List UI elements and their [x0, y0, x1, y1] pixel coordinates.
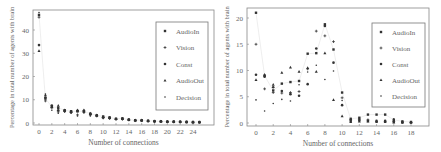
- data-point-audioout: [298, 70, 301, 73]
- data-point-decision: [164, 96, 166, 98]
- y-tick-label: 15: [236, 41, 244, 49]
- y-axis-label: Percentage in total number of agents wit…: [8, 6, 15, 128]
- chart-right: 05101520024681012141618Number of connect…: [220, 0, 441, 152]
- legend-label: AudioIn: [392, 29, 416, 37]
- x-tick-label: 12: [356, 129, 364, 137]
- legend-label: Vision: [392, 45, 411, 53]
- data-point-audioin: [281, 82, 283, 84]
- data-point-decision: [350, 120, 352, 122]
- data-point-decision: [255, 99, 257, 101]
- data-point-const: [289, 93, 292, 96]
- x-axis-label: Number of connections: [303, 139, 373, 148]
- data-point-decision: [393, 118, 395, 120]
- data-point-const: [255, 73, 258, 76]
- scatter-plot-right: 05101520024681012141618Number of connect…: [220, 0, 441, 152]
- data-point-decision: [402, 122, 404, 124]
- legend-label: AudioOut: [176, 77, 204, 85]
- data-point-decision: [167, 121, 169, 123]
- data-point-audioout: [38, 49, 41, 52]
- data-point-decision: [96, 115, 98, 117]
- scatter-plot-left: 010203040024681012141618202224Number of …: [0, 0, 220, 152]
- data-point-audioout: [280, 71, 283, 74]
- data-point-decision: [90, 115, 92, 117]
- x-tick-label: 18: [408, 129, 416, 137]
- x-tick-label: 14: [373, 129, 381, 137]
- x-tick-label: 8: [323, 129, 327, 137]
- data-point-vision: [298, 90, 301, 93]
- data-point-audioout: [289, 66, 292, 69]
- data-point-decision: [324, 79, 326, 81]
- x-tick-label: 12: [113, 128, 121, 136]
- x-tick-label: 6: [76, 128, 80, 136]
- data-point-decision: [179, 121, 181, 123]
- data-point-decision: [141, 120, 143, 122]
- data-point-const: [341, 104, 344, 107]
- data-point-audioout: [82, 109, 85, 112]
- x-tick-label: 10: [339, 129, 347, 137]
- data-point-vision: [255, 43, 258, 46]
- data-point-decision: [341, 100, 343, 102]
- data-point-audioout: [315, 70, 318, 73]
- data-point-decision: [38, 12, 40, 14]
- data-point-decision: [376, 121, 378, 123]
- legend-label: AudioIn: [176, 28, 200, 36]
- data-point-decision: [83, 112, 85, 114]
- x-tick-label: 6: [306, 129, 310, 137]
- data-point-const: [44, 96, 47, 99]
- data-point-audioin: [315, 52, 317, 54]
- data-point-audioin: [164, 30, 166, 32]
- data-point-audioin: [332, 48, 334, 50]
- x-tick-label: 24: [190, 128, 198, 136]
- data-point-decision: [147, 121, 149, 123]
- legend-label: AudioOut: [392, 77, 420, 85]
- data-point-decision: [359, 118, 361, 120]
- chart-left: 010203040024681012141618202224Number of …: [0, 0, 220, 152]
- data-point-audioin: [289, 81, 291, 83]
- y-tick-label: 0: [26, 120, 30, 128]
- data-point-decision: [115, 119, 117, 121]
- data-point-decision: [333, 70, 335, 72]
- legend-label: Vision: [176, 44, 195, 52]
- data-point-const: [332, 61, 335, 64]
- data-point-audioin: [367, 113, 369, 115]
- data-point-audioout: [341, 115, 344, 118]
- data-point-audioout: [255, 78, 258, 81]
- data-point-const: [306, 83, 309, 86]
- data-point-decision: [307, 71, 309, 73]
- data-point-const: [38, 44, 41, 47]
- legend-label: Const: [176, 61, 192, 69]
- y-tick-label: 0: [240, 120, 244, 128]
- data-point-decision: [186, 122, 188, 124]
- data-point-decision: [160, 121, 162, 123]
- data-point-decision: [102, 118, 104, 120]
- data-point-const: [164, 63, 167, 66]
- data-point-vision: [263, 87, 266, 90]
- data-point-decision: [298, 84, 300, 86]
- data-point-const: [263, 76, 266, 79]
- data-point-decision: [192, 122, 194, 124]
- data-point-decision: [57, 112, 59, 114]
- data-point-vision: [315, 30, 318, 33]
- data-point-audioin: [38, 14, 40, 16]
- x-tick-label: 10: [100, 128, 108, 136]
- data-point-decision: [384, 121, 386, 123]
- data-point-const: [281, 90, 284, 93]
- data-point-decision: [134, 120, 136, 122]
- data-point-decision: [380, 95, 382, 97]
- x-tick-label: 16: [138, 128, 146, 136]
- y-tick-label: 30: [22, 50, 30, 58]
- data-point-audioin: [375, 113, 377, 115]
- data-point-audioout: [323, 52, 326, 55]
- data-point-decision: [154, 121, 156, 123]
- y-tick-label: 10: [22, 96, 30, 104]
- data-point-audioin: [384, 113, 386, 115]
- y-tick-label: 5: [240, 93, 244, 101]
- data-point-audioin: [306, 53, 308, 55]
- data-point-decision: [281, 99, 283, 101]
- data-point-vision: [341, 96, 344, 99]
- data-point-audioout: [76, 109, 79, 112]
- data-point-decision: [45, 93, 47, 95]
- legend-label: Decision: [392, 93, 417, 101]
- x-tick-label: 2: [271, 129, 275, 137]
- data-point-decision: [272, 103, 274, 105]
